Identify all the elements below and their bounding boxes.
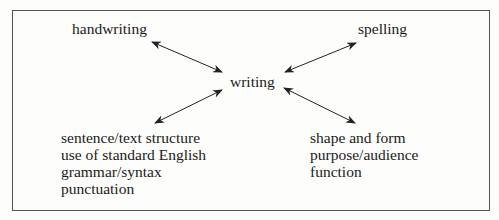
label-group-shape: shape and form purpose/audience function — [310, 129, 418, 180]
arrow-shape — [284, 88, 355, 123]
label-structure-item: sentence/text structure — [61, 129, 206, 146]
label-shape-item: purpose/audience — [310, 146, 418, 163]
label-shape-item: shape and form — [310, 129, 418, 146]
label-structure-item: grammar/syntax — [61, 163, 206, 180]
label-shape-item: function — [310, 163, 418, 180]
arrow-handwriting — [152, 42, 222, 72]
arrow-structure — [155, 90, 222, 123]
label-spelling: spelling — [358, 20, 407, 37]
label-structure-item: use of standard English — [61, 146, 206, 163]
label-handwriting: handwriting — [72, 20, 147, 37]
label-group-structure: sentence/text structure use of standard … — [61, 129, 206, 197]
label-writing: writing — [230, 73, 275, 90]
arrow-spelling — [285, 43, 356, 72]
label-structure-item: punctuation — [61, 180, 206, 197]
